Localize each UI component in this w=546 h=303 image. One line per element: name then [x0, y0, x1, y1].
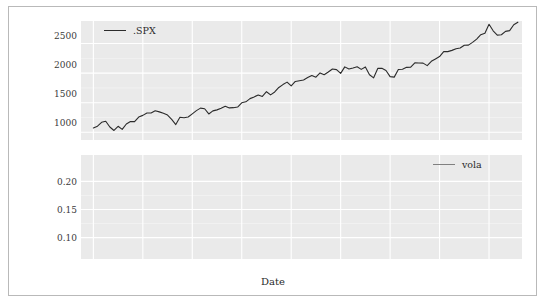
vola-y-axis: 0.20 0.15 0.10	[9, 7, 77, 295]
vola-ytick-015: 0.15	[33, 205, 77, 215]
x-axis-label: Date	[0, 276, 546, 287]
figure-frame: 2500 2000 1500 1000 .SPX 0.20 0.15 0.10 …	[8, 6, 537, 296]
vola-legend: vola	[433, 158, 482, 170]
spx-legend-swatch	[104, 30, 126, 31]
vola-ytick-010: 0.10	[33, 233, 77, 243]
spx-plot-panel	[81, 21, 522, 140]
vola-plot-panel	[81, 155, 522, 259]
vola-plot-area	[81, 155, 522, 259]
spx-legend: .SPX	[104, 24, 156, 36]
spx-plot-area	[81, 21, 522, 140]
vola-legend-swatch	[433, 164, 455, 165]
vola-ytick-020: 0.20	[33, 177, 77, 187]
spx-legend-label: .SPX	[133, 25, 156, 36]
vola-legend-label: vola	[462, 159, 482, 170]
chart-figure: 2500 2000 1500 1000 .SPX 0.20 0.15 0.10 …	[0, 0, 546, 303]
